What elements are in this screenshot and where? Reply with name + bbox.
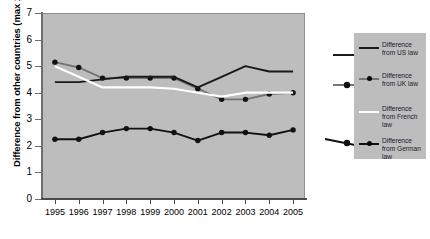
legend-item[interactable]: Difference from French law xyxy=(358,105,426,130)
y-tick-label: 0 xyxy=(2,194,32,204)
x-tick xyxy=(55,200,56,204)
x-tick xyxy=(293,200,294,204)
y-tick-label: 1 xyxy=(2,167,32,177)
legend-swatch-icon xyxy=(358,73,380,84)
data-point xyxy=(52,137,57,142)
series-layer xyxy=(43,13,305,199)
y-tick-label: 2 xyxy=(2,141,32,151)
data-point xyxy=(219,130,224,135)
x-tick xyxy=(269,200,270,204)
x-tick xyxy=(150,200,151,204)
series-line xyxy=(55,66,293,87)
data-point xyxy=(147,126,152,131)
data-point xyxy=(52,59,57,64)
y-tick xyxy=(35,93,41,94)
legend-item[interactable]: Difference from German law xyxy=(358,137,426,162)
legend-swatch-icon xyxy=(358,42,380,53)
legend-connector xyxy=(325,139,355,145)
x-tick xyxy=(103,200,104,204)
y-tick xyxy=(35,66,41,67)
legend-item[interactable]: Difference from UK law xyxy=(358,72,426,88)
data-point xyxy=(243,130,248,135)
x-tick xyxy=(126,200,127,204)
legend-swatch-icon xyxy=(358,138,380,149)
data-point xyxy=(100,130,105,135)
legend-connector-lines xyxy=(305,33,355,159)
x-tick xyxy=(198,200,199,204)
x-tick xyxy=(174,200,175,204)
legend-item-label: Difference from US law xyxy=(380,41,426,57)
data-point xyxy=(267,133,272,138)
data-point xyxy=(76,65,81,70)
data-point xyxy=(195,138,200,143)
data-point xyxy=(290,127,295,132)
legend-swatch-icon xyxy=(358,106,380,117)
x-tick xyxy=(79,200,80,204)
y-tick xyxy=(35,40,41,41)
legend-item-label: Difference from German law xyxy=(380,137,426,162)
data-point xyxy=(171,130,176,135)
y-tick xyxy=(35,199,41,200)
data-point xyxy=(76,137,81,142)
x-tick xyxy=(222,200,223,204)
y-tick xyxy=(35,146,41,147)
series-line xyxy=(55,66,293,97)
x-tick xyxy=(245,200,246,204)
y-tick-label: 4 xyxy=(2,88,32,98)
legend-item-label: Difference from French law xyxy=(380,105,426,130)
y-tick xyxy=(35,119,41,120)
y-tick-label: 3 xyxy=(2,114,32,124)
y-tick xyxy=(35,172,41,173)
legend: Difference from US lawDifference from UK… xyxy=(354,33,426,159)
y-tick-label: 7 xyxy=(2,8,32,18)
legend-item-label: Difference from UK law xyxy=(380,72,426,88)
y-tick xyxy=(35,13,41,14)
data-point xyxy=(243,97,248,102)
x-tick-label: 2005 xyxy=(273,207,313,217)
line-chart: Difference from other countries (max 10)… xyxy=(0,0,430,239)
y-tick-label: 6 xyxy=(2,35,32,45)
data-point xyxy=(124,126,129,131)
y-tick-label: 5 xyxy=(2,61,32,71)
legend-connector-point xyxy=(344,140,350,146)
legend-connector-point xyxy=(344,82,350,88)
legend-item[interactable]: Difference from US law xyxy=(358,41,426,57)
